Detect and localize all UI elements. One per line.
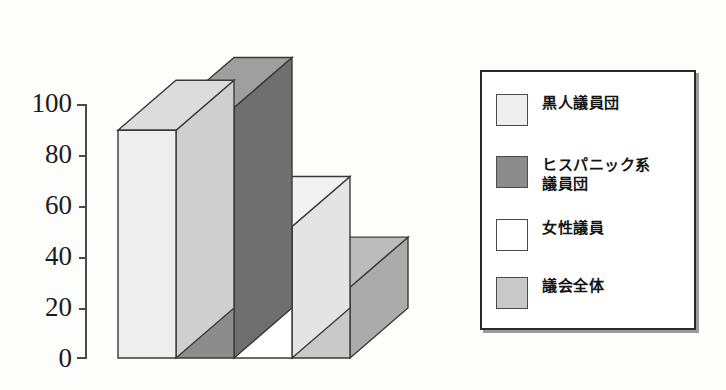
legend-swatch-3: [496, 277, 528, 309]
legend-item-3: 議会全体: [496, 277, 604, 309]
legend-box: 黒人議員団 ヒスパニック系 議員団 女性議員 議会全体: [480, 70, 696, 330]
legend-label-1: ヒスパニック系 議員団: [542, 156, 651, 194]
legend-label-3: 議会全体: [542, 277, 604, 296]
legend-label-2: 女性議員: [542, 219, 604, 238]
legend-swatch-0: [496, 94, 528, 126]
legend-item-2: 女性議員: [496, 219, 604, 251]
legend-swatch-2: [496, 219, 528, 251]
legend-item-0: 黒人議員団: [496, 94, 620, 126]
bar-chart-figure: 100 80 60 40 20 0 黒人議員団 ヒスパニック系 議員団 女性議員: [0, 0, 726, 390]
bar-front-face-0: [118, 130, 176, 358]
bar-side-face-1: [234, 58, 292, 358]
legend-swatch-1: [496, 156, 528, 188]
legend-item-1: ヒスパニック系 議員団: [496, 156, 651, 194]
legend-label-0: 黒人議員団: [542, 94, 620, 113]
